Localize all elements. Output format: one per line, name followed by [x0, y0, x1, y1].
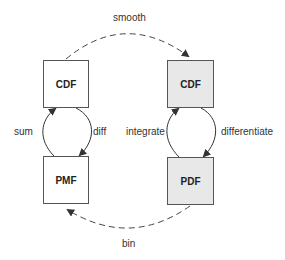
- diff-label: diff: [93, 126, 106, 137]
- bin-arrow: [68, 206, 190, 228]
- sum-arrow: [43, 109, 55, 156]
- smooth-arrow: [66, 34, 188, 59]
- continuous-cdf-node: CDF: [167, 60, 214, 108]
- smooth-label: smooth: [113, 12, 146, 23]
- node-label: PMF: [55, 175, 76, 186]
- node-label: PDF: [181, 176, 201, 187]
- node-label: CDF: [180, 79, 201, 90]
- sum-label: sum: [14, 126, 33, 137]
- node-label: CDF: [56, 79, 77, 90]
- differentiate-label: differentiate: [221, 126, 273, 137]
- diff-arrow: [76, 108, 92, 155]
- differentiate-arrow: [201, 108, 216, 156]
- pmf-node: PMF: [43, 156, 89, 204]
- bin-label: bin: [122, 238, 135, 249]
- integrate-arrow: [167, 109, 179, 157]
- integrate-label: integrate: [126, 126, 165, 137]
- pdf-node: PDF: [167, 157, 214, 205]
- discrete-cdf-node: CDF: [43, 60, 89, 108]
